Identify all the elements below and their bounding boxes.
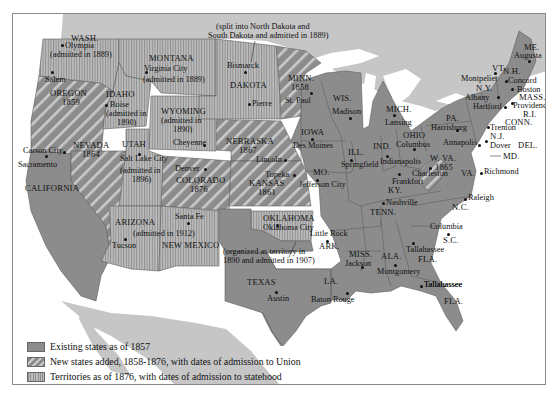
capital-dot bbox=[480, 172, 483, 175]
capital-dot bbox=[382, 202, 385, 205]
swatch-existing bbox=[27, 342, 45, 352]
capital-oklahoma-city: Oklahoma City bbox=[263, 223, 314, 233]
label-tenn: TENN. bbox=[370, 208, 396, 218]
label-nc: N.C. bbox=[452, 203, 469, 213]
capital-tucson: Tucson bbox=[112, 241, 136, 251]
capital-dot bbox=[398, 173, 401, 176]
capital-santa-fe: Santa Fe bbox=[175, 212, 204, 222]
legend-label: Territories as of 1876, with dates of ad… bbox=[50, 371, 282, 382]
capital-raleigh: Raleigh bbox=[468, 193, 494, 203]
label-ala: ALA. bbox=[381, 252, 402, 262]
capital-richmond: Richmond bbox=[484, 167, 519, 177]
legend-label: New states added, 1858-1876, with dates … bbox=[50, 356, 301, 367]
oklahoma-note-2: 1890 and admitted in 1907) bbox=[223, 256, 315, 266]
legend-item-territories: Territories as of 1876, with dates of ad… bbox=[27, 369, 301, 384]
swatch-territories bbox=[27, 372, 45, 382]
legend-item-existing: Existing states as of 1857 bbox=[27, 339, 301, 354]
legend: Existing states as of 1857 New states ad… bbox=[27, 339, 301, 385]
label-ga: FLA. bbox=[418, 255, 437, 265]
label-new-mexico: NEW MEXICO bbox=[162, 241, 219, 251]
label-texas: TEXAS bbox=[247, 278, 276, 288]
label-ky: KY. bbox=[388, 186, 402, 196]
capital-columbia: Columbia bbox=[430, 222, 463, 232]
capital-tallahassee-label: Tallahassee bbox=[424, 280, 462, 290]
label-la: LA. bbox=[324, 277, 338, 287]
capital-dot bbox=[187, 222, 190, 225]
capital-little-rock: Little Rock bbox=[310, 229, 348, 239]
label-ark: ARK. bbox=[319, 242, 340, 252]
label-fla: FLA. bbox=[444, 297, 463, 307]
legend-item-new-states: New states added, 1858-1876, with dates … bbox=[27, 354, 301, 369]
capital-jackson: Jackson bbox=[345, 259, 371, 269]
legend-item-capitals: State and territorial capitals bbox=[27, 384, 301, 385]
capital-dot bbox=[464, 198, 467, 201]
arizona-note: (admitted in 1912) bbox=[133, 229, 195, 239]
capital-baton-rouge: Baton Rouge bbox=[311, 295, 355, 305]
capital-dot bbox=[420, 285, 423, 288]
label-va: VA. bbox=[461, 169, 475, 179]
swatch-new-states bbox=[27, 357, 45, 367]
capital-austin: Austin bbox=[267, 294, 289, 304]
label-arizona: ARIZONA bbox=[115, 218, 155, 228]
label-sc: S.C. bbox=[443, 236, 459, 246]
legend-label: Existing states as of 1857 bbox=[50, 341, 150, 352]
map-frame: (split into North Dakota and South Dakot… bbox=[12, 13, 546, 385]
capital-montgomery: Montgomery bbox=[377, 267, 420, 277]
